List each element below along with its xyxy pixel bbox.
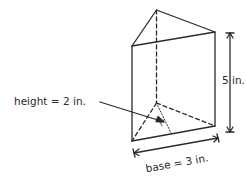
top-triangle-face	[132, 10, 215, 46]
hidden-bottom-left-edge	[132, 103, 157, 141]
arrowhead-icon	[156, 117, 164, 123]
bottom-front-edge	[132, 126, 215, 141]
triangle-base-label: base = 3 in.	[145, 151, 210, 174]
height-pointer-arrow	[100, 102, 161, 121]
prism-diagram: height = 2 in. 5 in. base = 3 in.	[0, 0, 246, 182]
hidden-bottom-right-edge	[157, 103, 216, 126]
triangle-height-label: height = 2 in.	[14, 95, 86, 107]
prism-length-label: 5 in.	[222, 74, 245, 86]
